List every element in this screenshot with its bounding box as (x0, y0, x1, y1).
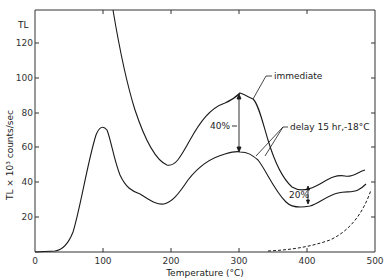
leader-delay-branch (256, 127, 283, 156)
label-40-percent: 40% (210, 121, 230, 131)
y-corner-label: TL (17, 20, 29, 30)
y-tick-label: 60 (22, 142, 34, 152)
y-tick-labels: 20 40 60 80 100 120 (16, 38, 33, 222)
y-tick-label: 100 (16, 73, 33, 83)
x-tick-label: 200 (162, 256, 179, 266)
y-tick-label: 120 (16, 38, 33, 48)
y-axis-label: TL × 10³ counts/sec (5, 110, 15, 201)
x-tick-label: 300 (230, 256, 247, 266)
label-immediate: immediate (274, 71, 323, 81)
annotation-40-percent (232, 94, 241, 152)
x-tick-label: 0 (32, 256, 38, 266)
x-tick-label: 400 (298, 256, 315, 266)
series-delay (35, 127, 366, 252)
leader-immediate (253, 76, 272, 99)
x-tick-label: 500 (366, 256, 383, 266)
x-tick-labels: 0 100 200 300 400 500 (32, 256, 384, 266)
label-20-percent: 20% (289, 190, 309, 200)
x-ticks (103, 10, 307, 252)
tl-glow-curve-chart: 0 100 200 300 400 500 20 40 60 80 100 12… (0, 0, 386, 280)
y-tick-label: 40 (22, 177, 34, 187)
label-delay: delay 15 hr,-18°C (290, 122, 370, 132)
y-tick-label: 80 (22, 108, 34, 118)
x-tick-label: 100 (94, 256, 111, 266)
y-tick-label: 20 (22, 212, 34, 222)
x-axis-label: Temperature (°C) (165, 268, 244, 278)
